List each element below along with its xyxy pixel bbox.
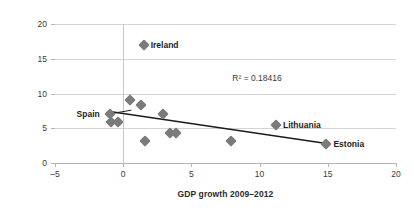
point-label-lithuania: Lithuania (283, 120, 321, 130)
y-axis-tick-label: 5 (21, 123, 47, 133)
point-label-ireland: Ireland (151, 40, 179, 50)
x-axis-tick-label: 20 (381, 169, 411, 179)
x-axis-line (55, 163, 396, 164)
x-axis-tick-label: –5 (40, 169, 70, 179)
scatter-chart: Consolidation volume GDP growth 2009–201… (0, 0, 414, 212)
x-axis-tick-label: 15 (313, 169, 343, 179)
y-axis-tick-label: 15 (21, 54, 47, 64)
plot-area: 05101520 –505101520 IrelandLithuaniaEsto… (55, 24, 396, 163)
x-axis-tick (260, 163, 261, 167)
point-label-estonia: Estonia (333, 139, 364, 149)
x-axis-tick (396, 163, 397, 167)
x-axis-tick-label: 0 (108, 169, 138, 179)
x-axis-tick (123, 163, 124, 167)
point-label-spain: Spain (77, 109, 100, 119)
y-axis-tick-label: 20 (21, 19, 47, 29)
x-axis-tick (191, 163, 192, 167)
x-axis-tick-label: 5 (176, 169, 206, 179)
x-axis-tick (55, 163, 56, 167)
x-axis-tick (328, 163, 329, 167)
r-squared-annotation: R² = 0.18416 (232, 73, 281, 83)
y-axis-tick-label: 0 (21, 158, 47, 168)
x-axis-title: GDP growth 2009–2012 (55, 189, 396, 199)
y-axis-tick-label: 10 (21, 89, 47, 99)
x-axis-tick-label: 10 (245, 169, 275, 179)
